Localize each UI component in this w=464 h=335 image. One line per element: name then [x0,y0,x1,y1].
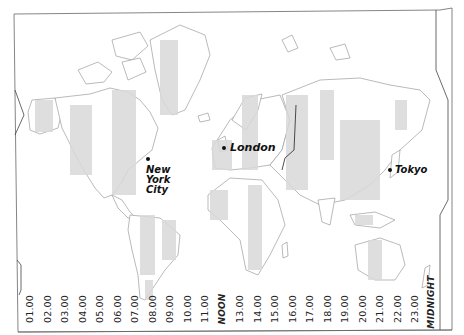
hour-label: 15.00 [267,288,281,330]
hour-label-noon: NOON [215,288,229,330]
hour-label: 04.00 [75,288,89,330]
hour-label: 19.00 [337,288,351,330]
hour-label-midnight: MIDNIGHT [424,274,438,330]
hour-label: 05.00 [92,288,106,330]
hour-label: 07.00 [127,288,141,330]
hour-labels-strip: 01.00 02.00 03.00 04.00 05.00 06.00 07.0… [22,288,442,332]
hour-label: 13.00 [232,288,246,330]
hour-label: 08.00 [145,288,159,330]
hour-label: 06.00 [110,288,124,330]
hour-label: 09.00 [162,288,176,330]
hour-label: 16.00 [285,288,299,330]
hour-label: 01.00 [22,288,36,330]
hour-label: 03.00 [57,288,71,330]
hour-label: 22.00 [390,288,404,330]
hour-label: 20.00 [355,288,369,330]
hour-label: 18.00 [320,288,334,330]
new-york-city-label: New York City [146,165,170,195]
hour-label: 23.00 [407,288,421,330]
hour-label: 10.00 [180,288,194,330]
hour-label: 11.00 [197,288,211,330]
tokyo-label: Tokyo [395,165,427,175]
hour-label: 17.00 [302,288,316,330]
hour-label: 02.00 [40,288,54,330]
london-marker [222,146,226,150]
tokyo-marker [388,168,392,172]
hour-label: 14.00 [250,288,264,330]
london-label: London [230,143,276,153]
new-york-city-marker [146,157,150,161]
hour-label: 21.00 [372,288,386,330]
